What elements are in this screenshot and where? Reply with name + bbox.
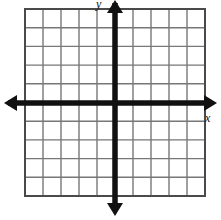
y-axis-label: y (96, 0, 101, 10)
graph-svg (0, 0, 221, 220)
coordinate-grid-figure: y x (0, 0, 221, 220)
x-axis-arrow-left (4, 95, 17, 111)
x-axis-label: x (205, 112, 210, 124)
y-axis-arrow-down (107, 203, 123, 216)
y-axis-arrow-up (107, 0, 123, 13)
x-axis-arrow-right (204, 95, 217, 111)
